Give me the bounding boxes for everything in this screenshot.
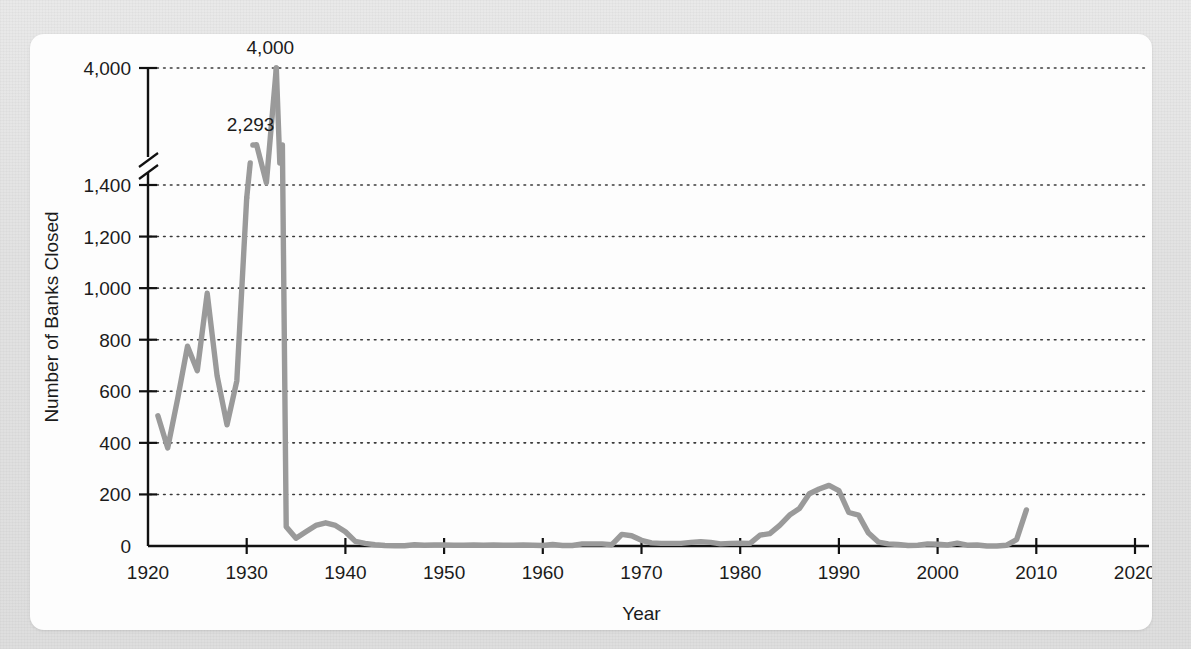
y-axis-tick-label: 800 [99,330,131,351]
series-line [158,198,247,448]
y-axis-tick-label: 0 [120,536,131,557]
axis-lines [148,68,1149,546]
y-axis-tick-label: 200 [99,484,131,505]
gridlines [150,68,1149,494]
data-series [158,68,1027,546]
y-axis-tick-label: 1,400 [83,175,131,196]
x-axis-tick-label: 2000 [916,562,958,583]
y-axis-tick-label: 400 [99,433,131,454]
x-axis-tick-label: 2010 [1015,562,1057,583]
y-axis-tick-label: 1,200 [83,227,131,248]
x-axis-tick-label: 1920 [127,562,169,583]
data-annotations: 4,0002,293 [227,37,294,135]
y-axis-tick-label: 1,000 [83,278,131,299]
x-axis-tick-label: 2020 [1114,562,1152,583]
x-axis-tick-label: 1950 [423,562,465,583]
y-axis-tick-labels: 02004006008001,0001,2001,4004,000 [83,58,131,557]
y-axis-tick-label: 4,000 [83,58,131,79]
y-axis-tick-label: 600 [99,381,131,402]
x-axis-tick-label: 1980 [719,562,761,583]
x-axis-title: Year [622,603,661,624]
x-axis-tick-labels: 1920193019401950196019701980199020002010… [127,562,1152,583]
x-axis-tick-label: 1940 [324,562,366,583]
series-line-break-stub [276,68,280,163]
x-axis-tick-label: 1970 [620,562,662,583]
series-line [282,145,1026,546]
series-line-break-stub [247,163,251,198]
x-axis-tick-label: 1990 [818,562,860,583]
y-axis-title: Number of Banks Closed [41,211,62,422]
data-annotation: 2,293 [227,114,275,135]
data-annotation: 4,000 [247,37,295,58]
figure-card: 02004006008001,0001,2001,4004,000 192019… [30,34,1152,630]
x-axis-tick-label: 1930 [226,562,268,583]
line-chart: 02004006008001,0001,2001,4004,000 192019… [30,34,1152,630]
x-axis-tick-label: 1960 [522,562,564,583]
